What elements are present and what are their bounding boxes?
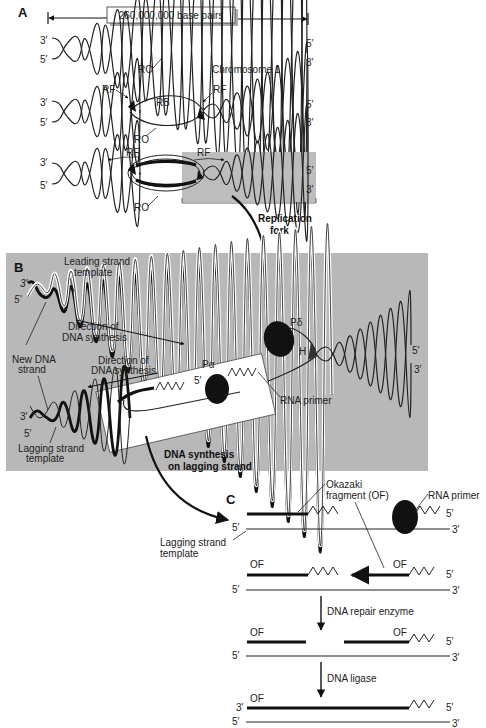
c-rna-primer-label: RNA primer: [428, 490, 480, 501]
c3-of-right: OF: [393, 627, 407, 638]
replication-fork-callout-line1: Replication: [258, 213, 312, 224]
panel-c-label: C: [226, 492, 236, 507]
ligase-label: DNA ligase: [327, 673, 377, 684]
polymerase-alpha: [205, 374, 229, 404]
b-lag-3prime: 3′: [20, 411, 28, 422]
c-polymerase: [392, 500, 418, 534]
b-inner-5prime: 5′: [194, 375, 202, 386]
row3-5prime-right: 5′: [306, 165, 314, 176]
helicase-label: H: [299, 346, 306, 357]
b-5prime-right: 5′: [412, 345, 420, 356]
b-lag-5prime: 5′: [24, 428, 32, 439]
panel-a-label: A: [18, 5, 28, 20]
pol-delta-label: Pδ: [290, 317, 303, 328]
panel-b: B 3′ 5′ Leading strand template Directio…: [6, 223, 428, 552]
row3-5prime-left: 5′: [40, 180, 48, 191]
c3-3prime-right: 3′: [452, 652, 460, 663]
c2-of-left: OF: [250, 559, 264, 570]
row3-3prime-right: 3′: [306, 184, 314, 195]
c1-5prime-right: 5′: [446, 508, 454, 519]
row3-fork-left-label: RF: [126, 147, 139, 158]
leading-template-label-2: template: [74, 267, 113, 278]
b-rna-primer-label: RNA primer: [280, 395, 332, 406]
scale-bar: 260,000,000 base pairs: [48, 7, 308, 26]
chromosome-label: Chromosome 1: [212, 64, 281, 75]
step-2: OF OF 5′ 5′ 3′: [232, 559, 460, 596]
direction-synthesis-1-line2: DNA synthesis: [62, 332, 127, 343]
row2-fork-left-label: RF: [102, 84, 115, 95]
row2-origin-label: RO: [134, 134, 149, 145]
figure-svg: A 260,000,000 base pairs 3′ 5′ 5′ 3′ RO …: [0, 0, 486, 728]
c3-of-left: OF: [250, 627, 264, 638]
new-strand-label-2: strand: [18, 364, 46, 375]
panel-b-label: B: [14, 260, 23, 275]
row1-origin-label: RO: [138, 64, 153, 75]
row3-origin-label: RO: [134, 202, 149, 213]
b-3prime-right: 3′: [414, 364, 422, 375]
row2-5prime-left: 5′: [40, 117, 48, 128]
c-lagging-template-2: template: [160, 548, 199, 559]
row3-fork-right-label: RF: [197, 147, 210, 158]
c2-5prime-right: 5′: [446, 569, 454, 580]
row1-3prime-left: 3′: [40, 35, 48, 46]
c-lagging-template-1: Lagging strand: [160, 537, 226, 548]
okazaki-label-1: Okazaki: [326, 479, 362, 490]
step-3: OF OF 5′ 5′ 3′: [232, 627, 460, 663]
lagging-template-label-2: template: [26, 453, 65, 464]
row1-5prime-left: 5′: [40, 54, 48, 65]
c4-5prime-left: 5′: [232, 716, 240, 727]
lagging-callout-line1: DNA synthesis: [164, 449, 235, 460]
step-4: 3′ OF 5′ 5′ 3′: [232, 693, 460, 728]
c3-5prime-left: 5′: [232, 650, 240, 661]
row2-3prime-left: 3′: [40, 97, 48, 108]
c1-5prime-left: 5′: [232, 522, 240, 533]
direction-synthesis-1-line1: Direction of: [68, 321, 119, 332]
c2-3prime-right: 3′: [452, 585, 460, 596]
pol-alpha-label: Pα: [202, 359, 215, 370]
c3-5prime-right: 5′: [446, 636, 454, 647]
b-5prime-left: 5′: [14, 294, 23, 305]
c2-5prime-left: 5′: [232, 584, 240, 595]
repair-enzyme-label: DNA repair enzyme: [327, 606, 414, 617]
c4-of-left: OF: [250, 693, 264, 704]
direction-synthesis-2-line2: DNA synthesis: [91, 365, 156, 376]
dna-replication-figure: A 260,000,000 base pairs 3′ 5′ 5′ 3′ RO …: [0, 0, 486, 728]
c1-3prime-right: 3′: [452, 524, 460, 535]
row2-fork-right-label: RF: [213, 84, 226, 95]
lagging-callout-line2: on lagging strand: [168, 461, 252, 472]
b-3prime-left: 3′: [20, 278, 29, 289]
bubble-label: RB: [156, 97, 170, 108]
c2-of-right: OF: [393, 559, 407, 570]
row3-3prime-left: 3′: [40, 157, 48, 168]
rna-primer-zigzag: [415, 506, 440, 514]
leading-template-label-1: Leading strand: [64, 256, 130, 267]
okazaki-label-2: fragment (OF): [326, 490, 389, 501]
c4-3prime-right: 3′: [452, 718, 460, 728]
c4-5prime-right: 5′: [446, 702, 454, 713]
c4-3prime-left: 3′: [236, 702, 244, 713]
